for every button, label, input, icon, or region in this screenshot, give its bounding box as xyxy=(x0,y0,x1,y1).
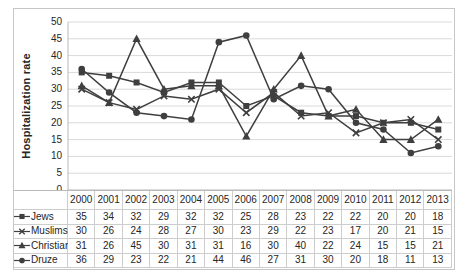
table-value-cell: 20 xyxy=(370,210,397,225)
table-value-cell: 24 xyxy=(123,225,150,240)
table-value-cell: 23 xyxy=(287,210,314,225)
series-label-text: Jews xyxy=(31,212,54,222)
table-value-cell: 46 xyxy=(233,254,260,269)
table-value-cell: 31 xyxy=(287,254,314,269)
table-value-cell: 23 xyxy=(123,254,150,269)
series-muslims xyxy=(79,86,442,143)
table-value-cell: 29 xyxy=(260,225,287,240)
table-value-cell: 28 xyxy=(260,210,287,225)
y-tick-label: 25 xyxy=(34,100,62,112)
table-value-cell: 18 xyxy=(424,210,451,225)
table-value-cell: 21 xyxy=(178,254,205,269)
christians-series-marker-icon xyxy=(14,241,30,250)
table-value-cell: 22 xyxy=(315,239,342,254)
year-header-cell: 2008 xyxy=(287,191,314,210)
table-value-cell: 20 xyxy=(342,254,369,269)
table-value-cell: 30 xyxy=(150,239,177,254)
table-value-cell: 13 xyxy=(424,254,451,269)
table-value-cell: 15 xyxy=(370,239,397,254)
table-value-cell: 36 xyxy=(68,254,95,269)
table-value-cell: 30 xyxy=(68,225,95,240)
series-label-cell-christians: Christians xyxy=(13,239,68,254)
series-line-druze xyxy=(82,35,439,153)
series-label-cell-muslims: Muslims xyxy=(13,225,68,240)
table-value-cell: 30 xyxy=(315,254,342,269)
table-value-cell: 40 xyxy=(287,239,314,254)
y-tick-label: 10 xyxy=(34,150,62,162)
year-header-cell: 2011 xyxy=(370,191,397,210)
table-value-cell: 24 xyxy=(342,239,369,254)
jews-series-marker-icon xyxy=(14,212,30,221)
table-value-cell: 22 xyxy=(287,225,314,240)
series-label-cell-jews: Jews xyxy=(13,210,68,225)
series-label-cell-druze: Druze xyxy=(13,254,68,269)
y-tick-label: 20 xyxy=(34,117,62,129)
table-value-cell: 25 xyxy=(233,210,260,225)
y-tick-label: 50 xyxy=(34,16,62,28)
table-value-cell: 23 xyxy=(315,225,342,240)
year-header-cell: 2000 xyxy=(68,191,95,210)
year-header-cell: 2002 xyxy=(123,191,150,210)
year-header-cell: 2009 xyxy=(315,191,342,210)
table-value-cell: 15 xyxy=(424,225,451,240)
y-tick-label: 40 xyxy=(34,50,62,62)
table-corner-cell xyxy=(13,191,68,210)
table-value-cell: 31 xyxy=(205,239,232,254)
muslims-series-marker-icon xyxy=(14,227,30,236)
table-value-cell: 15 xyxy=(397,239,424,254)
table-value-cell: 29 xyxy=(150,210,177,225)
year-header-cell: 2003 xyxy=(150,191,177,210)
year-header-cell: 2001 xyxy=(95,191,122,210)
series-label-text: Muslims xyxy=(31,226,68,236)
y-tick-label: 30 xyxy=(34,83,62,95)
y-axis-title: Hospitalization rate xyxy=(20,53,32,158)
series-druze xyxy=(78,32,441,156)
year-header-cell: 2004 xyxy=(178,191,205,210)
table-value-cell: 31 xyxy=(68,239,95,254)
series-label-text: Druze xyxy=(31,255,58,265)
y-tick-label: 5 xyxy=(34,167,62,179)
table-value-cell: 22 xyxy=(342,210,369,225)
table-value-cell: 27 xyxy=(178,225,205,240)
year-header-cell: 2006 xyxy=(233,191,260,210)
table-value-cell: 22 xyxy=(150,254,177,269)
year-header-cell: 2007 xyxy=(260,191,287,210)
year-header-cell: 2012 xyxy=(397,191,424,210)
druze-series-marker-icon xyxy=(14,256,30,265)
table-value-cell: 20 xyxy=(397,210,424,225)
y-tick-label: 35 xyxy=(34,66,62,78)
year-header-cell: 2005 xyxy=(205,191,232,210)
table-value-cell: 44 xyxy=(205,254,232,269)
table-value-cell: 31 xyxy=(178,239,205,254)
data-table: 2000200120022003200420052006200720082009… xyxy=(13,190,452,268)
y-tick-label: 45 xyxy=(34,33,62,45)
table-value-cell: 17 xyxy=(342,225,369,240)
table-value-cell: 27 xyxy=(260,254,287,269)
year-header-cell: 2013 xyxy=(424,191,451,210)
table-value-cell: 32 xyxy=(123,210,150,225)
table-value-cell: 26 xyxy=(95,239,122,254)
table-value-cell: 28 xyxy=(150,225,177,240)
table-value-cell: 21 xyxy=(424,239,451,254)
table-value-cell: 32 xyxy=(178,210,205,225)
year-header-cell: 2010 xyxy=(342,191,369,210)
table-value-cell: 22 xyxy=(315,210,342,225)
table-value-cell: 34 xyxy=(95,210,122,225)
table-value-cell: 21 xyxy=(397,225,424,240)
table-value-cell: 35 xyxy=(68,210,95,225)
table-value-cell: 29 xyxy=(95,254,122,269)
table-value-cell: 18 xyxy=(370,254,397,269)
table-value-cell: 11 xyxy=(397,254,424,269)
y-tick-label: 15 xyxy=(34,134,62,146)
table-value-cell: 32 xyxy=(205,210,232,225)
table-value-cell: 26 xyxy=(95,225,122,240)
table-value-cell: 23 xyxy=(233,225,260,240)
table-value-cell: 20 xyxy=(370,225,397,240)
chart-figure: Hospitalization rate 0510152025303540455… xyxy=(0,0,463,276)
table-value-cell: 16 xyxy=(233,239,260,254)
table-value-cell: 45 xyxy=(123,239,150,254)
table-value-cell: 30 xyxy=(260,239,287,254)
table-value-cell: 30 xyxy=(205,225,232,240)
